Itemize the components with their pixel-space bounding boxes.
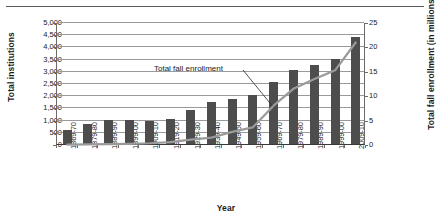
y-axis-right-tick-label: 25 [369, 19, 399, 27]
tick-mark [200, 145, 201, 148]
tick-mark [97, 145, 98, 148]
x-axis-title: Year [0, 203, 430, 213]
tick-mark [262, 145, 263, 148]
enrollment-line [67, 43, 355, 145]
y-axis-right-tick-label: 20 [369, 43, 399, 51]
y-axis-left-title: Total institutions [6, 12, 16, 122]
annotation-total-fall-enrollment: Total fall enrollment [154, 64, 223, 73]
y-axis-right-tick-label: 0 [369, 141, 399, 149]
tick-mark [344, 145, 345, 148]
tick-mark [221, 145, 222, 148]
tick-mark [138, 145, 139, 148]
tick-mark [118, 145, 119, 148]
tick-mark [324, 145, 325, 148]
y-axis-right-tick-label: 15 [369, 68, 399, 76]
tick-mark [241, 145, 242, 148]
y-axis-right-tick-label: 5 [369, 117, 399, 125]
y-axis-right-title: Total fall enrollment (in millions) [426, 0, 436, 133]
line-series [57, 23, 366, 145]
tick-mark [159, 145, 160, 148]
tick-mark [180, 145, 181, 148]
tick-mark [56, 145, 57, 148]
tick-mark [283, 145, 284, 148]
y-axis-right-tick-label: 10 [369, 92, 399, 100]
tick-mark [303, 145, 304, 148]
tick-mark [365, 145, 366, 148]
plot-area [56, 23, 365, 145]
